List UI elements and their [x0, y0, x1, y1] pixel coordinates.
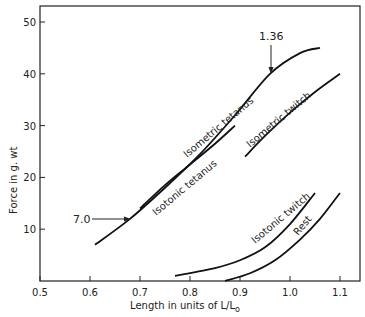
label-rest: Rest: [291, 213, 313, 237]
y-tick-label: 30: [23, 121, 36, 132]
label-isometric-twitch: Isometric twitch: [244, 89, 313, 149]
y-axis-label: Force in g. wt: [8, 147, 19, 214]
label-isotonic-tetanus: Isotonic tetanus: [150, 158, 218, 218]
x-tick-label: 1.1: [332, 287, 348, 298]
x-tick-label: 0.6: [82, 287, 98, 298]
curves: [95, 48, 340, 281]
annotation-7-0: 7.0: [73, 213, 91, 226]
x-tick-label: 0.9: [232, 287, 248, 298]
y-tick-label: 10: [23, 224, 36, 235]
label-isometric-tetanus: Isometric tetanus: [181, 95, 255, 160]
curve-isotonic-tetanus: [140, 126, 235, 209]
x-tick-label: 0.7: [132, 287, 148, 298]
annotation-1-36: 1.36: [259, 30, 284, 43]
y-tick-label: 50: [23, 17, 36, 28]
x-tick-label: 1.0: [282, 287, 298, 298]
y-tick-label: 40: [23, 69, 36, 80]
curve-rest: [225, 193, 340, 281]
y-tick-label: 20: [23, 172, 36, 183]
x-axis-label: Length in units of L/Lo: [130, 300, 240, 314]
x-tick-label: 0.5: [32, 287, 48, 298]
chart: 0.50.60.70.80.91.01.11020304050 Isometri…: [0, 0, 365, 317]
x-tick-label: 0.8: [182, 287, 198, 298]
